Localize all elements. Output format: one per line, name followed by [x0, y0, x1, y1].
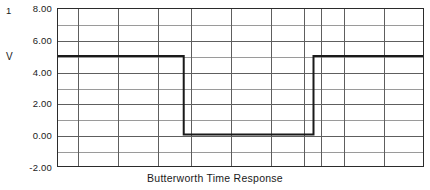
chart-caption: Butterworth Time Response	[0, 172, 430, 184]
chart-figure: 1 8.00 6.00 4.00 2.00 0.00 -2.00 V	[0, 0, 430, 190]
y-tick-label: -2.00	[29, 162, 52, 173]
waveform-trace	[58, 9, 423, 166]
y-tick-label: 4.00	[33, 66, 52, 77]
y-tick-label: 8.00	[33, 3, 52, 14]
y-tick-label: 0.00	[33, 130, 52, 141]
y-axis-title: V	[6, 50, 13, 61]
y-tick-label: 2.00	[33, 98, 52, 109]
y-axis: 8.00 6.00 4.00 2.00 0.00 -2.00	[0, 0, 57, 167]
y-tick-label: 6.00	[33, 34, 52, 45]
signal-polyline	[58, 56, 423, 135]
plot-area	[57, 8, 424, 167]
